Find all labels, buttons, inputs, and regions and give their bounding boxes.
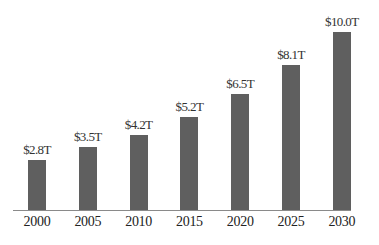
x-tick-label-2010: 2010 [114, 214, 164, 230]
x-tick-label-2025: 2025 [266, 214, 316, 230]
data-label-2020: $6.5T [210, 76, 270, 92]
data-label-2025: $8.1T [261, 47, 321, 63]
bar-2010 [130, 135, 148, 210]
bar-2025 [282, 65, 300, 210]
data-label-2030: $10.0T [312, 14, 372, 30]
x-tick-label-2000: 2000 [12, 214, 62, 230]
x-axis-line [13, 210, 351, 211]
x-tick-label-2015: 2015 [164, 214, 214, 230]
bar-2000 [28, 160, 46, 210]
data-label-2010: $4.2T [109, 117, 169, 133]
x-tick-label-2005: 2005 [63, 214, 113, 230]
x-tick-label-2030: 2030 [317, 214, 367, 230]
bar-2030 [333, 32, 351, 210]
bar-2005 [79, 147, 97, 210]
bar-2015 [180, 117, 198, 210]
data-label-2015: $5.2T [159, 99, 219, 115]
bar-2020 [231, 94, 249, 210]
x-tick-label-2020: 2020 [215, 214, 265, 230]
